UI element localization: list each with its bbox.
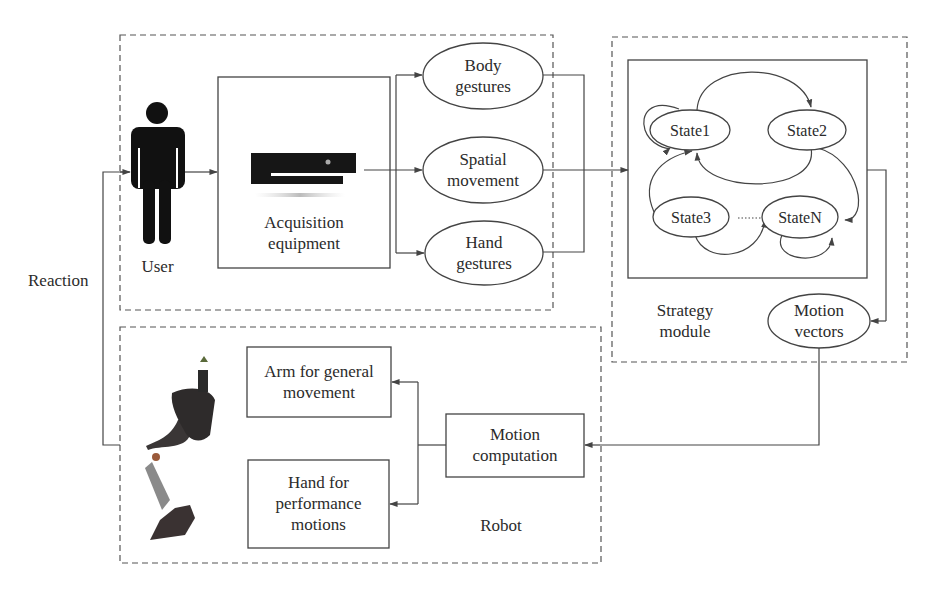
sensor-device-icon — [251, 153, 356, 197]
motion-computation-label: Motion computation — [446, 424, 584, 466]
motion-vectors-label: Motion vectors — [768, 300, 870, 342]
body-gestures-label: Body gestures — [423, 55, 543, 97]
state1-label: State1 — [650, 120, 730, 141]
robot-label: Robot — [466, 515, 536, 536]
hand-gestures-label: Hand gestures — [425, 232, 543, 274]
stateN-label: StateN — [762, 207, 838, 228]
strategy-module-label: Strategy module — [640, 300, 730, 342]
arm-general-movement-label: Arm for general movement — [247, 361, 391, 403]
reaction-label: Reaction — [28, 270, 88, 291]
user-label: User — [130, 256, 185, 277]
hand-performance-motions-label: Hand for performance motions — [248, 472, 389, 535]
robot-arm-icon — [145, 356, 215, 540]
spatial-movement-label: Spatial movement — [423, 149, 543, 191]
state-machine-box — [628, 60, 867, 278]
state2-label: State2 — [768, 120, 846, 141]
acquisition-label: Acquisition equipment — [218, 212, 390, 254]
user-person-icon — [131, 102, 185, 244]
state3-label: State3 — [653, 207, 729, 228]
